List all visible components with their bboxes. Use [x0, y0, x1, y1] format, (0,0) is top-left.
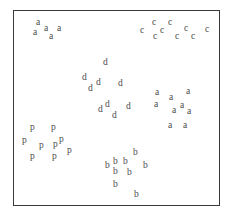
scatter-point-d: d — [98, 105, 103, 115]
scatter-point-d: d — [126, 102, 131, 112]
scatter-point-p: p — [67, 146, 72, 156]
scatter-point-p: p — [39, 141, 44, 151]
scatter-point-b: b — [133, 148, 138, 158]
scatter-point-p: p — [30, 123, 35, 133]
scatter-point-d: d — [103, 58, 108, 68]
scatter-point-p: p — [52, 152, 57, 162]
scatter-point-p: p — [59, 135, 64, 145]
scatter-point-d: d — [105, 100, 110, 110]
scatter-point-b: b — [123, 157, 128, 167]
scatter-point-p: p — [22, 136, 27, 146]
scatter-point-b: b — [134, 190, 139, 200]
scatter-point-p: p — [30, 152, 35, 162]
scatter-point-a: a — [169, 93, 173, 103]
scatter-point-d: d — [88, 84, 93, 94]
scatter-point-c: c — [140, 26, 144, 36]
scatter-point-c: c — [205, 25, 209, 35]
scatter-point-c: c — [152, 18, 156, 28]
scatter-point-b: b — [105, 161, 110, 171]
scatter-point-a: a — [168, 121, 172, 131]
scatter-point-a: a — [155, 88, 159, 98]
scatter-point-d: d — [112, 111, 117, 121]
scatter-point-c: c — [191, 32, 195, 42]
scatter-point-a: a — [57, 24, 61, 34]
scatter-point-b: b — [127, 168, 132, 178]
scatter-point-c: c — [160, 26, 164, 36]
scatter-point-b: b — [113, 167, 118, 177]
scatter-plot-area: aaaaacccccccccdddddddddaaaaaaaaapppppppp… — [0, 0, 231, 221]
scatter-point-a: a — [172, 106, 176, 116]
scatter-point-c: c — [153, 32, 157, 42]
scatter-point-a: a — [183, 121, 187, 131]
scatter-point-c: c — [168, 18, 172, 28]
scatter-point-d: d — [96, 78, 101, 88]
scatter-point-d: d — [118, 79, 123, 89]
scatter-point-a: a — [186, 87, 190, 97]
scatter-point-a: a — [44, 24, 48, 34]
scatter-point-p: p — [53, 140, 58, 150]
scatter-point-a: a — [33, 28, 37, 38]
scatter-point-a: a — [154, 100, 158, 110]
scatter-figure: aaaaacccccccccdddddddddaaaaaaaaapppppppp… — [0, 0, 231, 221]
scatter-point-p: p — [51, 123, 56, 133]
scatter-point-d: d — [82, 73, 87, 83]
scatter-point-b: b — [113, 180, 118, 190]
scatter-point-b: b — [143, 161, 148, 171]
scatter-point-a: a — [49, 32, 53, 42]
scatter-point-a: a — [187, 107, 191, 117]
scatter-point-a: a — [180, 101, 184, 111]
scatter-point-c: c — [184, 24, 188, 34]
scatter-point-c: c — [175, 32, 179, 42]
